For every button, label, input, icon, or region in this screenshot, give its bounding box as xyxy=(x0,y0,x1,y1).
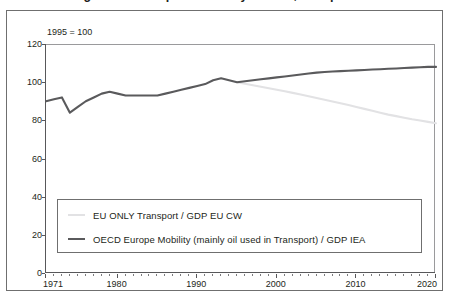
x-axis-tick-minor xyxy=(141,274,142,276)
y-axis-tick-label: 120 xyxy=(16,39,42,49)
x-axis-tick-minor xyxy=(316,274,317,276)
x-axis-tick-minor xyxy=(148,274,149,276)
x-axis-tick-minor xyxy=(252,274,253,276)
x-axis-tick-minor xyxy=(156,274,157,276)
x-axis-tick-minor xyxy=(371,274,372,276)
x-axis-tick-minor xyxy=(268,274,269,276)
x-axis-tick-minor xyxy=(220,274,221,276)
line-swatch-light-icon xyxy=(68,214,85,216)
x-axis-tick-minor xyxy=(236,274,237,276)
x-axis-tick-minor xyxy=(93,274,94,276)
chart-figure: Figure — Transport intensity of GDP, Eur… xyxy=(0,0,450,298)
x-axis-tick-major xyxy=(355,274,356,278)
y-axis-tick-label: 40 xyxy=(16,192,42,202)
x-axis-tick-minor xyxy=(53,274,54,276)
x-axis-tick-label: 2010 xyxy=(345,279,365,289)
x-axis-tick-minor xyxy=(284,274,285,276)
y-axis-tick-label: 60 xyxy=(16,154,42,164)
x-axis-tick-minor xyxy=(363,274,364,276)
x-axis-tick-label: 1971 xyxy=(43,279,63,289)
x-axis-tick-minor xyxy=(204,274,205,276)
x-axis: 197119801990200020102020 xyxy=(45,274,435,294)
x-axis-tick-minor xyxy=(427,274,428,276)
x-axis-tick-minor xyxy=(395,274,396,276)
legend-entry-label: EU ONLY Transport / GDP EU CW xyxy=(93,210,242,221)
x-axis-tick-minor xyxy=(180,274,181,276)
x-axis-tick-minor xyxy=(347,274,348,276)
x-axis-tick-label: 2000 xyxy=(266,279,286,289)
x-axis-tick-minor xyxy=(403,274,404,276)
y-axis-tick-label: 100 xyxy=(16,77,42,87)
x-axis-tick-minor xyxy=(125,274,126,276)
x-axis-tick-minor xyxy=(77,274,78,276)
x-axis-tick-major xyxy=(117,274,118,278)
y-axis: 020406080100120 xyxy=(13,44,42,273)
legend-entry: EU ONLY Transport / GDP EU CW xyxy=(68,207,242,223)
x-axis-tick-minor xyxy=(260,274,261,276)
chart-frame: 1995 = 100 020406080100120 1971198019902… xyxy=(6,10,443,291)
series-line xyxy=(237,82,436,123)
x-axis-tick-label: 2020 xyxy=(417,279,437,289)
x-axis-tick-major xyxy=(196,274,197,278)
x-axis-tick-label: 1990 xyxy=(186,279,206,289)
line-swatch-dark-icon xyxy=(68,238,85,241)
x-axis-tick-minor xyxy=(85,274,86,276)
x-axis-tick-minor xyxy=(228,274,229,276)
x-axis-tick-minor xyxy=(324,274,325,276)
x-axis-tick-minor xyxy=(69,274,70,276)
figure-caption-clip: Figure — Transport intensity of GDP, Eur… xyxy=(0,0,450,10)
y-axis-tick-label: 0 xyxy=(16,268,42,278)
y-axis-tick-label: 80 xyxy=(16,115,42,125)
x-axis-tick-minor xyxy=(212,274,213,276)
x-axis-tick-minor xyxy=(292,274,293,276)
x-axis-tick-label: 1980 xyxy=(107,279,127,289)
x-axis-tick-minor xyxy=(61,274,62,276)
x-axis-tick-minor xyxy=(244,274,245,276)
figure-caption: Figure — Transport intensity of GDP, Eur… xyxy=(72,0,392,2)
x-axis-tick-minor xyxy=(411,274,412,276)
x-axis-tick-minor xyxy=(164,274,165,276)
x-axis-tick-minor xyxy=(172,274,173,276)
x-axis-tick-minor xyxy=(387,274,388,276)
x-axis-tick-major xyxy=(276,274,277,278)
legend-entry: OECD Europe Mobility (mainly oil used in… xyxy=(68,231,366,247)
x-axis-tick-major xyxy=(45,274,46,278)
index-base-note: 1995 = 100 xyxy=(47,27,92,37)
x-axis-tick-minor xyxy=(332,274,333,276)
x-axis-tick-minor xyxy=(308,274,309,276)
x-axis-tick-major xyxy=(435,274,436,278)
y-axis-tick-label: 20 xyxy=(16,230,42,240)
legend-entry-label: OECD Europe Mobility (mainly oil used in… xyxy=(93,234,366,245)
x-axis-tick-minor xyxy=(339,274,340,276)
series-line xyxy=(46,67,436,113)
chart-legend: EU ONLY Transport / GDP EU CW OECD Europ… xyxy=(57,199,422,253)
x-axis-tick-minor xyxy=(379,274,380,276)
x-axis-tick-minor xyxy=(188,274,189,276)
x-axis-tick-minor xyxy=(133,274,134,276)
x-axis-tick-minor xyxy=(101,274,102,276)
x-axis-tick-minor xyxy=(419,274,420,276)
x-axis-tick-minor xyxy=(300,274,301,276)
x-axis-tick-minor xyxy=(109,274,110,276)
